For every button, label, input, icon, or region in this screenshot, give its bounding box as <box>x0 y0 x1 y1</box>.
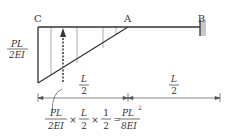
dimension-label-1: L 2 <box>79 74 89 96</box>
svg-text:2EI: 2EI <box>47 121 64 131</box>
point-label-b: B <box>198 13 205 24</box>
svg-text:=: = <box>113 115 121 125</box>
svg-text:1: 1 <box>103 108 109 118</box>
point-label-c: C <box>34 13 42 24</box>
dimension-label-2: L 2 <box>169 74 179 96</box>
svg-text:2EI: 2EI <box>8 50 25 60</box>
svg-text:2: 2 <box>138 104 142 111</box>
svg-text:PL: PL <box>49 108 62 118</box>
hatch-lines <box>51 27 116 75</box>
centroid-arrow-icon <box>60 28 66 82</box>
svg-text:PL: PL <box>121 108 134 118</box>
svg-text:×: × <box>91 115 99 125</box>
svg-text:2: 2 <box>81 86 87 96</box>
svg-text:2: 2 <box>171 86 177 96</box>
svg-text:2: 2 <box>103 121 109 131</box>
svg-text:8EI: 8EI <box>121 121 137 131</box>
svg-text:2: 2 <box>81 121 87 131</box>
svg-text:×: × <box>69 115 77 125</box>
point-label-a: A <box>123 13 132 24</box>
area-formula: PL 2EI × L 2 × 1 2 = PL 2 8EI <box>45 104 142 131</box>
svg-text:PL: PL <box>10 39 23 49</box>
svg-text:L: L <box>80 74 87 84</box>
dimension-line <box>38 93 220 102</box>
left-moment-label: PL 2EI <box>7 39 28 60</box>
svg-text:L: L <box>170 74 177 84</box>
svg-text:L: L <box>80 108 87 118</box>
beam-diagram: C A B PL 2EI L 2 L 2 PL 2EI × L 2 × 1 2 … <box>0 0 240 137</box>
